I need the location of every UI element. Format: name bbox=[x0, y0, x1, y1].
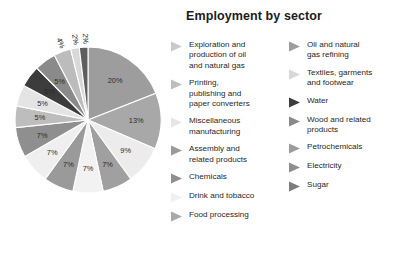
pie-slice-label: 9% bbox=[120, 146, 131, 155]
legend-item[interactable]: Printing, publishing and paper converter… bbox=[170, 78, 282, 109]
pie-slice-label: 2% bbox=[70, 33, 81, 46]
pie-slice-label: 13% bbox=[129, 116, 144, 125]
legend-column-left: Exploration and production of oil and na… bbox=[170, 40, 282, 229]
legend-item[interactable]: Petrochemicals bbox=[288, 142, 396, 154]
legend-item-label: Exploration and production of oil and na… bbox=[189, 40, 246, 71]
legend-item[interactable]: Drink and tobacco bbox=[170, 191, 282, 203]
legend-item[interactable]: Assembly and related products bbox=[170, 144, 282, 165]
legend-item-label: Sugar bbox=[307, 180, 329, 190]
legend-triangle-icon bbox=[288, 143, 301, 154]
legend-triangle-icon bbox=[170, 41, 183, 52]
legend-triangle-icon bbox=[170, 211, 183, 222]
legend-item-label: Miscellaneous manufacturing bbox=[189, 116, 240, 137]
legend-item-label: Electricity bbox=[307, 161, 342, 171]
pie-slice-label: 5% bbox=[37, 99, 48, 108]
pie-slice-label: 2% bbox=[81, 33, 91, 45]
legend-triangle-icon bbox=[170, 117, 183, 128]
legend-triangle-icon bbox=[170, 173, 183, 184]
legend-triangle-icon bbox=[170, 192, 183, 203]
legend-item[interactable]: Exploration and production of oil and na… bbox=[170, 40, 282, 71]
legend-item-label: Assembly and related products bbox=[189, 144, 247, 165]
legend-item[interactable]: Oil and natural gas refining bbox=[288, 40, 396, 61]
legend-item-label: Petrochemicals bbox=[307, 142, 362, 152]
legend-item[interactable]: Chemicals bbox=[170, 172, 282, 184]
pie-slice-label: 5% bbox=[35, 113, 46, 122]
pie-slice-label: 7% bbox=[83, 164, 94, 173]
legend-item[interactable]: Electricity bbox=[288, 161, 396, 173]
legend-item-label: Chemicals bbox=[189, 172, 227, 182]
legend-item-label: Textiles, garments and footwear bbox=[307, 68, 372, 89]
pie-slice-label: 7% bbox=[37, 131, 48, 140]
legend-triangle-icon bbox=[288, 69, 301, 80]
legend-triangle-icon bbox=[288, 116, 301, 127]
legend-column-right: Oil and natural gas refiningTextiles, ga… bbox=[288, 40, 396, 199]
pie-chart-svg: 20%13%9%7%7%7%7%7%5%5%5%5%4%2%2% bbox=[14, 30, 166, 220]
page-title: Employment by sector bbox=[186, 9, 322, 23]
legend-item-label: Drink and tobacco bbox=[189, 191, 254, 201]
legend-triangle-icon bbox=[288, 181, 301, 192]
legend-triangle-icon bbox=[288, 97, 301, 108]
legend-triangle-icon bbox=[288, 162, 301, 173]
legend-triangle-icon bbox=[170, 79, 183, 90]
legend-triangle-icon bbox=[170, 145, 183, 156]
legend-item[interactable]: Sugar bbox=[288, 180, 396, 192]
pie-slice-label: 4% bbox=[55, 37, 67, 51]
legend-item-label: Food processing bbox=[189, 210, 249, 220]
legend-item[interactable]: Wood and related products bbox=[288, 115, 396, 136]
legend-triangle-icon bbox=[288, 41, 301, 52]
chart-figure: Employment by sector 20%13%9%7%7%7%7%7%5… bbox=[0, 0, 396, 266]
pie-slice-label: 5% bbox=[54, 77, 65, 86]
legend-item-label: Water bbox=[307, 96, 328, 106]
pie-slice-label: 7% bbox=[47, 148, 58, 157]
legend-item-label: Wood and related products bbox=[307, 115, 371, 136]
pie-chart: 20%13%9%7%7%7%7%7%5%5%5%5%4%2%2% bbox=[14, 30, 166, 220]
legend-item[interactable]: Miscellaneous manufacturing bbox=[170, 116, 282, 137]
pie-slice-label: 7% bbox=[63, 160, 74, 169]
legend-item[interactable]: Textiles, garments and footwear bbox=[288, 68, 396, 89]
pie-slice-label: 20% bbox=[108, 76, 123, 85]
legend-item[interactable]: Food processing bbox=[170, 210, 282, 222]
pie-slice-label: 7% bbox=[102, 160, 113, 169]
legend-item[interactable]: Water bbox=[288, 96, 396, 108]
pie-slice-label: 5% bbox=[44, 87, 55, 96]
legend-item-label: Printing, publishing and paper converter… bbox=[189, 78, 250, 109]
legend-item-label: Oil and natural gas refining bbox=[307, 40, 360, 61]
